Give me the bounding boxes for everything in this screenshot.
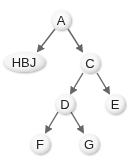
node-a-label: A (57, 13, 66, 28)
node-d[interactable]: D (55, 94, 75, 114)
edge-c-e (97, 73, 109, 93)
edges (38, 29, 109, 132)
tree-diagram: A HBJ C D E F G (0, 0, 136, 164)
node-f[interactable]: F (30, 134, 50, 154)
node-g[interactable]: G (79, 134, 99, 154)
node-g-label: G (84, 137, 94, 152)
node-c-label: C (85, 56, 94, 71)
node-c[interactable]: C (80, 53, 100, 73)
node-d-label: D (60, 97, 69, 112)
node-f-label: F (36, 137, 44, 152)
node-a[interactable]: A (51, 10, 71, 30)
node-e[interactable]: E (105, 94, 125, 114)
edge-d-g (71, 112, 83, 132)
node-e-label: E (111, 97, 120, 112)
edge-a-c (68, 29, 82, 51)
edge-c-d (71, 73, 83, 93)
node-hbj[interactable]: HBJ (3, 52, 45, 72)
edge-a-hbj (38, 29, 55, 51)
node-hbj-label: HBJ (12, 55, 37, 70)
edge-d-f (46, 112, 58, 132)
